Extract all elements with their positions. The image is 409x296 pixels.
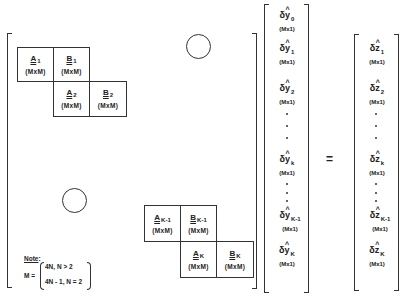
block-b1-dim: (MxM) — [61, 68, 81, 75]
block-a2: A2 (MxM) — [53, 81, 90, 117]
block-a1: A1 (MxM) — [17, 47, 54, 82]
y-item-2-dim: (Mx1) — [279, 99, 295, 105]
note-brace-right — [87, 262, 91, 290]
block-b2: B2 (MxM) — [89, 81, 127, 117]
z-item-2-sub: 2 — [381, 89, 384, 95]
block-ak-1-sub: K-1 — [161, 217, 171, 223]
y-item-0-hat: ^ — [286, 5, 290, 14]
zero-block-circle-upper — [186, 34, 211, 59]
y-item-2-hat: ^ — [286, 78, 290, 87]
block-ak: AK (MxM) — [180, 241, 217, 278]
y-ellipsis-dot — [286, 113, 288, 115]
block-b1: B1 (MxM) — [53, 47, 90, 82]
y-vector-right-bracket — [304, 4, 309, 293]
block-bk-1-sub: K-1 — [197, 217, 207, 223]
y-item-1-hat: ^ — [286, 38, 290, 47]
y-item-1-dim: (Mx1) — [279, 59, 295, 65]
block-b1-symbol: B — [66, 54, 72, 63]
y-item-k-hat: ^ — [286, 149, 290, 158]
z-item-k-1-dim: (Mx1) — [372, 226, 388, 232]
z-vector-right-bracket — [394, 34, 399, 291]
y-item-k: δy^k (Mx1) — [270, 155, 304, 176]
z-item-1-dim: (Mx1) — [369, 59, 385, 65]
note-case-2: 4N - 1, N = 2 — [45, 278, 82, 285]
note-label: Note: — [24, 255, 41, 262]
block-a2-dim: (MxM) — [61, 102, 81, 109]
block-ak-dim: (MxM) — [188, 263, 208, 270]
block-b2-sub: 2 — [110, 92, 113, 98]
note-case-1: 4N, N > 2 — [45, 263, 73, 270]
block-bk-1-symbol: B — [190, 213, 196, 222]
y-item-K-dim: (Mx1) — [279, 261, 295, 267]
z-item-1-hat: ^ — [376, 38, 380, 47]
note-colon: : — [38, 255, 40, 262]
y-item-k-1-dim: (Mx1) — [282, 226, 298, 232]
z-item-K-hat: ^ — [375, 240, 379, 249]
z-ellipsis-dot — [375, 183, 377, 185]
z-item-2-dim: (Mx1) — [369, 99, 385, 105]
block-ak-1: AK-1 (MxM) — [144, 205, 181, 242]
block-bk-dim: (MxM) — [225, 263, 245, 270]
block-ak-symbol: A — [193, 249, 199, 258]
y-item-1-sub: 1 — [291, 49, 294, 55]
block-ak-1-dim: (MxM) — [152, 227, 172, 234]
y-item-K-hat: ^ — [285, 240, 289, 249]
y-item-K-sub: K — [291, 251, 295, 257]
z-item-k-1-hat: ^ — [376, 205, 380, 214]
block-bk-1: BK-1 (MxM) — [180, 205, 217, 242]
block-a2-sub: 2 — [73, 92, 76, 98]
equals-sign: = — [326, 152, 333, 166]
y-item-k-1: δy^K-1 (Mx1) — [270, 211, 310, 232]
z-item-K-sub: K — [380, 251, 384, 257]
block-bk-sub: K — [236, 253, 240, 259]
z-vector-left-bracket — [354, 34, 359, 291]
z-item-k-hat: ^ — [376, 149, 380, 158]
y-ellipsis-dot — [286, 183, 288, 185]
block-a2-symbol: A — [66, 88, 72, 97]
note-brace-left — [40, 262, 44, 290]
z-item-k-dim: (Mx1) — [369, 170, 385, 176]
y-ellipsis-dot — [286, 125, 288, 127]
y-ellipsis-dot — [286, 192, 288, 194]
block-a1-sub: 1 — [37, 58, 40, 64]
block-b2-symbol: B — [103, 88, 109, 97]
block-ak-1-symbol: A — [154, 213, 160, 222]
z-item-1-sub: 1 — [381, 49, 384, 55]
y-item-k-1-sub: K-1 — [291, 216, 301, 222]
z-item-k-1-sub: K-1 — [381, 216, 391, 222]
y-item-1: δy^1 (Mx1) — [270, 44, 304, 65]
z-item-k: δz^k (Mx1) — [360, 155, 394, 176]
y-item-2-sub: 2 — [291, 89, 294, 95]
y-item-k-1-hat: ^ — [285, 205, 289, 214]
note-label-text: Note — [24, 255, 38, 262]
z-item-2-hat: ^ — [376, 78, 380, 87]
y-vector-left-bracket — [264, 4, 269, 293]
y-item-k-sub: k — [291, 160, 294, 166]
y-item-0-dim: (Mx1) — [279, 26, 295, 32]
y-item-2: δy^2 (Mx1) — [270, 84, 304, 105]
z-item-1: δz^1 (Mx1) — [360, 44, 394, 65]
block-ak-sub: K — [200, 253, 204, 259]
block-bk: BK (MxM) — [216, 241, 254, 278]
y-ellipsis-dot — [286, 200, 288, 202]
matrix-left-bracket — [7, 33, 12, 288]
block-a1-symbol: A — [30, 54, 36, 63]
z-item-K-dim: (Mx1) — [369, 261, 385, 267]
block-bk-symbol: B — [229, 249, 235, 258]
z-ellipsis-dot — [375, 192, 377, 194]
y-item-k-dim: (Mx1) — [279, 170, 295, 176]
z-item-K: δz^K (Mx1) — [360, 246, 394, 267]
block-a1-dim: (MxM) — [25, 68, 45, 75]
note-lhs: M = — [24, 272, 35, 279]
z-ellipsis-dot — [375, 113, 377, 115]
z-item-k-sub: k — [381, 160, 384, 166]
z-item-k-1: δz^K-1 (Mx1) — [360, 211, 400, 232]
y-item-0: δy^0 (Mx1) — [270, 11, 304, 32]
block-b1-sub: 1 — [73, 58, 76, 64]
block-b2-dim: (MxM) — [98, 102, 118, 109]
z-ellipsis-dot — [375, 125, 377, 127]
block-bk-1-dim: (MxM) — [188, 227, 208, 234]
y-item-K: δy^K (Mx1) — [270, 246, 304, 267]
zero-block-circle-lower — [62, 188, 87, 213]
z-item-2: δz^2 (Mx1) — [360, 84, 394, 105]
